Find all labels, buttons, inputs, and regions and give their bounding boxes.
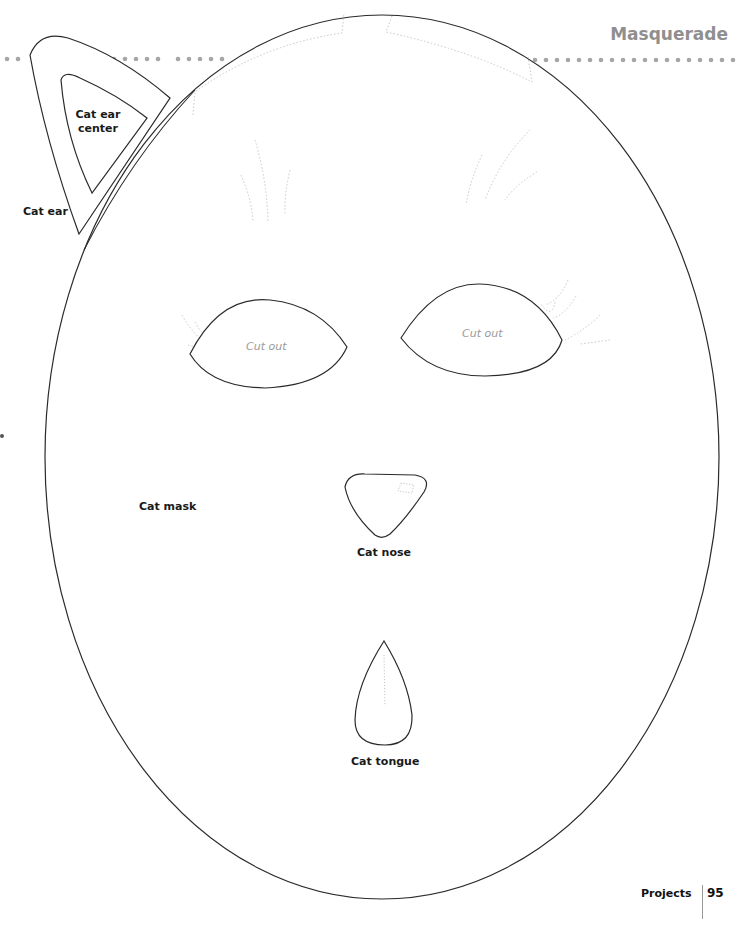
page-footer: Projects 95 [641,887,692,900]
pattern-page: Masquerade Cat ear center Cat ear Cut ou… [0,0,742,925]
page-number: 95 [707,886,724,900]
registration-mark [0,434,4,438]
cat-nose-label: Cat nose [357,546,411,559]
pattern-artwork [0,0,742,925]
left-eye-cutout-label: Cut out [246,340,286,353]
chapter-title: Masquerade [610,24,728,44]
cat-ear-center-label-line2: center [70,122,126,136]
footer-section: Projects [641,887,692,900]
right-eye-cutout-label: Cut out [462,327,502,340]
cat-ear-center-label: Cat ear center [70,108,126,136]
cat-mask-label: Cat mask [139,500,196,513]
cat-ear-label: Cat ear [23,205,68,218]
cat-tongue-label: Cat tongue [351,755,419,768]
footer-divider [702,885,703,919]
cat-ear-center-label-line1: Cat ear [70,108,126,122]
